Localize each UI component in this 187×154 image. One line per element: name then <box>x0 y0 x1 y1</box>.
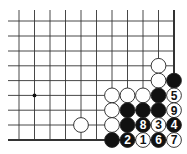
move-number: 6 <box>155 133 162 147</box>
go-board: 598342167 <box>0 0 187 154</box>
black-stone <box>167 73 182 88</box>
white-stone <box>105 103 120 118</box>
black-stone <box>151 88 166 103</box>
star-point <box>33 94 37 98</box>
white-stone: 3 <box>151 118 166 133</box>
move-number: 8 <box>140 118 147 132</box>
black-stone <box>105 133 120 148</box>
black-stone: 8 <box>136 118 151 133</box>
white-stone <box>105 118 120 133</box>
move-number: 9 <box>171 104 178 118</box>
white-stone: 9 <box>167 103 182 118</box>
move-number: 5 <box>171 89 178 103</box>
black-stone <box>136 103 151 118</box>
move-number: 2 <box>124 133 131 147</box>
white-stone: 1 <box>136 133 151 148</box>
move-number: 1 <box>140 133 147 147</box>
black-stone <box>151 103 166 118</box>
black-stone: 2 <box>120 133 135 148</box>
white-stone <box>151 58 166 73</box>
move-number: 3 <box>155 118 162 132</box>
white-stone <box>151 73 166 88</box>
white-stone <box>120 88 135 103</box>
move-number: 7 <box>171 133 178 147</box>
move-number: 4 <box>171 118 178 132</box>
star-points <box>33 94 37 98</box>
black-stone <box>120 103 135 118</box>
white-stone: 7 <box>167 133 182 148</box>
black-stone: 6 <box>151 133 166 148</box>
white-stone <box>105 88 120 103</box>
white-stone: 5 <box>167 88 182 103</box>
black-stone <box>120 118 135 133</box>
white-stone <box>74 118 89 133</box>
black-stone: 4 <box>167 118 182 133</box>
white-stone <box>136 88 151 103</box>
